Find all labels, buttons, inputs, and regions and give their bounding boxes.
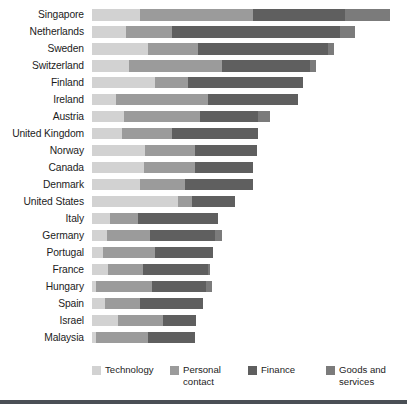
bar-segment-finance	[253, 9, 345, 21]
stacked-bar	[92, 264, 210, 276]
legend-item: Finance	[248, 364, 326, 387]
bar-row: Sweden	[0, 42, 407, 56]
legend-label: Personal contact	[183, 364, 248, 387]
bar-row: Germany	[0, 229, 407, 243]
bar-category-label: Norway	[0, 144, 88, 158]
bar-category-label: Ireland	[0, 93, 88, 107]
bar-segment-personal-contact	[178, 196, 192, 208]
bar-segment-personal-contact	[155, 77, 188, 89]
bar-category-label: Netherlands	[0, 25, 88, 39]
bar-segment-goods-and-services	[208, 264, 210, 276]
legend-label: Technology	[105, 364, 154, 376]
stacked-bar	[92, 213, 218, 225]
legend-swatch-icon	[326, 366, 335, 375]
bar-segment-personal-contact	[140, 9, 253, 21]
bar-segment-finance	[192, 196, 235, 208]
bar-category-label: Austria	[0, 110, 88, 124]
bar-category-label: Portugal	[0, 246, 88, 260]
bar-row: Portugal	[0, 246, 407, 260]
bar-segment-finance	[163, 315, 196, 327]
bar-segment-personal-contact	[105, 298, 140, 310]
bar-row: United Kingdom	[0, 127, 407, 141]
bar-segment-technology	[92, 264, 108, 276]
legend-label: Goods and services	[339, 364, 404, 387]
chart-plot-area: SingaporeNetherlandsSwedenSwitzerlandFin…	[0, 8, 407, 348]
bar-row: Singapore	[0, 8, 407, 22]
stacked-bar	[92, 77, 303, 89]
bar-segment-goods-and-services	[328, 43, 334, 55]
bar-segment-personal-contact	[124, 111, 200, 123]
bar-segment-personal-contact	[107, 230, 150, 242]
bar-segment-technology	[92, 162, 144, 174]
bar-segment-personal-contact	[145, 145, 195, 157]
bar-row: Israel	[0, 314, 407, 328]
legend-item: Goods and services	[326, 364, 404, 387]
bar-segment-personal-contact	[116, 94, 208, 106]
bar-row: Ireland	[0, 93, 407, 107]
bar-segment-personal-contact	[148, 43, 198, 55]
bar-row: United States	[0, 195, 407, 209]
bar-category-label: Canada	[0, 161, 88, 175]
bar-segment-technology	[92, 77, 155, 89]
bar-segment-technology	[92, 213, 110, 225]
stacked-bar	[92, 179, 253, 191]
bar-row: Spain	[0, 297, 407, 311]
bar-segment-goods-and-services	[215, 230, 222, 242]
bar-segment-technology	[92, 43, 148, 55]
bar-segment-technology	[92, 196, 178, 208]
bottom-divider-rule	[0, 400, 407, 404]
bar-segment-goods-and-services	[258, 111, 270, 123]
chart-legend: TechnologyPersonal contactFinanceGoods a…	[92, 364, 404, 387]
bar-row: Canada	[0, 161, 407, 175]
bar-row: Finland	[0, 76, 407, 90]
stacked-bar	[92, 145, 257, 157]
bar-segment-technology	[92, 94, 116, 106]
stacked-bar	[92, 230, 222, 242]
legend-label: Finance	[261, 364, 295, 376]
bar-segment-goods-and-services	[345, 9, 390, 21]
bar-row: Malaysia	[0, 331, 407, 345]
bar-segment-personal-contact	[129, 60, 222, 72]
stacked-bar	[92, 247, 213, 259]
bar-segment-technology	[92, 315, 118, 327]
bar-category-label: Malaysia	[0, 331, 88, 345]
bar-segment-finance	[185, 179, 253, 191]
bar-segment-finance	[143, 264, 208, 276]
bar-segment-finance	[222, 60, 310, 72]
bar-segment-technology	[92, 145, 145, 157]
bar-segment-finance	[172, 128, 258, 140]
stacked-bar	[92, 94, 298, 106]
bar-segment-finance	[195, 145, 257, 157]
bar-segment-technology	[92, 230, 107, 242]
stacked-bar	[92, 60, 316, 72]
bar-segment-technology	[92, 179, 140, 191]
bar-category-label: Switzerland	[0, 59, 88, 73]
bar-segment-personal-contact	[108, 264, 143, 276]
bar-segment-finance	[188, 77, 303, 89]
bar-row: Hungary	[0, 280, 407, 294]
bar-category-label: France	[0, 263, 88, 277]
bar-row: Italy	[0, 212, 407, 226]
bar-category-label: Denmark	[0, 178, 88, 192]
stacked-bar	[92, 26, 355, 38]
stacked-bar-chart: SingaporeNetherlandsSwedenSwitzerlandFin…	[0, 0, 407, 414]
stacked-bar	[92, 43, 334, 55]
bar-segment-finance	[208, 94, 298, 106]
legend-item: Personal contact	[170, 364, 248, 387]
bar-segment-personal-contact	[118, 315, 163, 327]
stacked-bar	[92, 162, 253, 174]
bar-segment-finance	[148, 332, 195, 344]
bar-segment-personal-contact	[122, 128, 172, 140]
bar-category-label: Singapore	[0, 8, 88, 22]
bar-segment-technology	[92, 26, 126, 38]
bar-segment-personal-contact	[96, 332, 148, 344]
bar-row: Switzerland	[0, 59, 407, 73]
bar-segment-technology	[92, 9, 140, 21]
legend-swatch-icon	[248, 366, 257, 375]
bar-category-label: Israel	[0, 314, 88, 328]
bar-segment-technology	[92, 298, 105, 310]
bar-segment-finance	[138, 213, 218, 225]
bar-category-label: Spain	[0, 297, 88, 311]
stacked-bar	[92, 9, 390, 21]
stacked-bar	[92, 128, 258, 140]
